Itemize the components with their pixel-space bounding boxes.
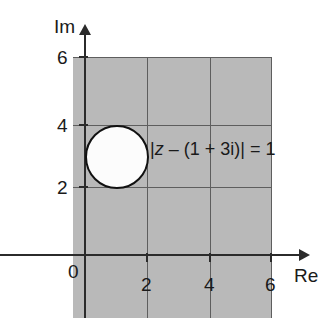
origin-label: 0 [68, 262, 79, 281]
equation-plus: + [200, 139, 221, 159]
tick-re-4 [209, 253, 211, 262]
gridline-im-2 [73, 187, 272, 188]
locus-circle [85, 125, 149, 189]
imaginary-axis-arrow-icon [79, 24, 91, 35]
tick-label-re-6: 6 [265, 275, 276, 294]
tick-im-2 [79, 186, 88, 188]
tick-label-re-4: 4 [204, 275, 215, 294]
tick-im-4 [79, 124, 88, 126]
tick-label-im-4: 4 [57, 116, 68, 135]
equation-real-part: 1 [190, 139, 200, 159]
real-axis-arrow-icon [299, 249, 310, 261]
equation-variable: z [155, 139, 164, 159]
gridline-im-4 [73, 125, 272, 126]
tick-label-re-2: 2 [141, 275, 152, 294]
tick-re-6 [270, 253, 272, 262]
tick-re-2 [146, 253, 148, 262]
imaginary-axis-label: Im [54, 17, 75, 36]
real-axis [0, 254, 300, 256]
equation-value: 1 [265, 139, 275, 159]
equation-imaginary-part: 3i [220, 139, 234, 159]
tick-label-im-6: 6 [57, 48, 68, 67]
tick-label-im-2: 2 [57, 178, 68, 197]
imaginary-axis [84, 35, 86, 318]
real-axis-label: Re [294, 266, 318, 285]
complex-plane-figure: 6 4 2 0 2 4 6 Im Re |z – (1 + 3i)| = 1 [0, 0, 323, 330]
tick-im-6 [79, 56, 88, 58]
gridline-im-6 [73, 57, 272, 58]
equation-equals: = [245, 139, 266, 159]
circle-equation-annotation: |z – (1 + 3i)| = 1 [150, 140, 275, 158]
equation-minus-open-paren: – ( [164, 139, 190, 159]
